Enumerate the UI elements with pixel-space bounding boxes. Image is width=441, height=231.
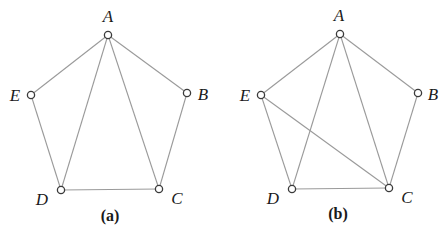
graph-b-edges — [261, 34, 418, 189]
graph-a-vertices — [27, 31, 190, 193]
vertex-b — [414, 89, 421, 96]
graph-diagram: ABCDE (a) ABCDE (b) — [0, 0, 441, 231]
edge-a-e — [261, 34, 340, 95]
vertex-label-c: C — [171, 189, 183, 208]
edge-d-e — [261, 95, 292, 189]
vertex-label-d: D — [35, 190, 49, 209]
edge-a-b — [340, 34, 418, 93]
graph-b-vertices — [257, 30, 421, 192]
vertex-b — [183, 89, 190, 96]
edge-a-d — [61, 35, 108, 190]
vertex-e — [27, 91, 34, 98]
edge-d-e — [31, 95, 61, 190]
vertex-label-c: C — [401, 188, 413, 207]
graph-a-caption: (a) — [101, 207, 120, 225]
vertex-label-e: E — [239, 86, 251, 105]
vertex-label-b: B — [198, 85, 209, 104]
vertex-label-d: D — [266, 189, 280, 208]
vertex-e — [257, 91, 264, 98]
vertex-label-e: E — [9, 86, 21, 105]
vertex-c — [385, 184, 392, 191]
edge-a-c — [340, 34, 389, 188]
vertex-c — [155, 185, 162, 192]
vertex-a — [336, 30, 343, 37]
edge-a-e — [31, 35, 108, 95]
graph-a: ABCDE (a) — [9, 7, 209, 225]
vertex-d — [288, 185, 295, 192]
edge-b-c — [389, 93, 418, 188]
vertex-label-a: A — [102, 7, 114, 26]
edge-a-c — [108, 35, 159, 189]
graph-b-caption: (b) — [328, 205, 348, 223]
edge-a-d — [292, 34, 340, 189]
vertex-a — [104, 31, 111, 38]
edge-e-c — [261, 95, 389, 188]
edge-c-d — [61, 189, 159, 190]
graph-a-edges — [31, 35, 187, 190]
vertex-label-b: B — [428, 85, 439, 104]
edge-b-c — [159, 93, 187, 189]
edge-a-b — [108, 35, 187, 93]
graph-b: ABCDE (b) — [239, 6, 439, 223]
vertex-d — [57, 186, 64, 193]
edge-c-d — [292, 188, 389, 189]
vertex-label-a: A — [333, 6, 345, 25]
